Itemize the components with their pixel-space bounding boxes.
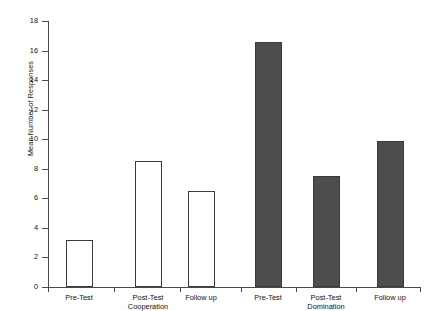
x-axis-label: Post-Test [296,293,356,302]
y-tick: 16 [0,51,48,52]
x-tick-mark [180,287,181,292]
group-label: Domination [286,302,366,311]
y-tick: 18 [0,21,48,22]
y-tick-mark [42,51,48,52]
y-axis-line [48,21,49,288]
y-tick: 12 [0,110,48,111]
x-tick-mark [48,287,49,292]
y-tick-label: 12 [16,106,38,113]
y-tick-mark [42,169,48,170]
y-tick: 8 [0,169,48,170]
x-axis-label: Post-Test [118,293,178,302]
bar [188,191,215,287]
x-tick-mark [296,287,297,292]
bar [313,176,340,287]
y-tick: 6 [0,198,48,199]
y-tick-mark [42,228,48,229]
x-tick-mark [356,287,357,292]
y-tick-label: 14 [16,76,38,83]
y-tick-label: 0 [16,283,38,290]
bar [377,141,404,287]
y-tick: 10 [0,139,48,140]
y-tick-mark [42,80,48,81]
y-tick-mark [42,198,48,199]
x-tick-mark [241,287,242,292]
y-tick-label: 2 [16,253,38,260]
x-axis-label: Pre-Test [238,293,298,302]
y-tick-mark [42,110,48,111]
x-tick-mark [114,287,115,292]
x-axis-label: Follow up [171,293,231,302]
x-axis-label: Follow up [360,293,420,302]
bar [255,42,282,287]
bar [66,240,93,287]
y-tick: 4 [0,228,48,229]
y-tick-mark [42,21,48,22]
y-tick-label: 8 [16,165,38,172]
x-axis-label: Pre-Test [49,293,109,302]
x-tick-mark [420,287,421,292]
y-tick-label: 6 [16,194,38,201]
x-axis-line [48,287,420,288]
y-tick: 0 [0,287,48,288]
y-tick: 2 [0,257,48,258]
y-tick-mark [42,139,48,140]
y-tick-label: 4 [16,224,38,231]
group-label: Cooperation [108,302,188,311]
y-tick-label: 16 [16,47,38,54]
y-tick-label: 10 [16,135,38,142]
y-tick: 14 [0,80,48,81]
y-tick-mark [42,257,48,258]
y-tick-label: 18 [16,17,38,24]
bar [135,161,162,287]
